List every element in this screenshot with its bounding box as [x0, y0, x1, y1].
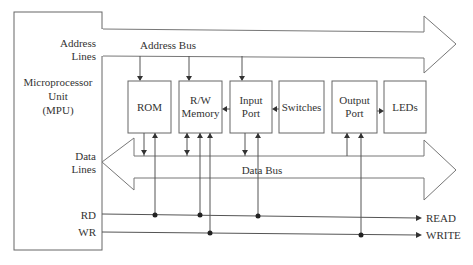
arrowhead-icon — [416, 215, 422, 221]
arrowhead-icon — [186, 76, 192, 81]
arrowhead-icon — [242, 150, 248, 155]
wr-line — [102, 232, 418, 235]
junction-dot — [256, 214, 261, 219]
junction-dot — [153, 213, 158, 218]
arrowhead-icon — [184, 150, 190, 155]
svg-text:R/W: R/W — [190, 94, 211, 106]
mpu-title-1: Microprocessor — [23, 76, 92, 88]
svg-text:Switches: Switches — [282, 101, 322, 113]
junction-dot — [208, 231, 213, 236]
rw-memory-block: R/W Memory — [179, 81, 222, 133]
write-label: WRITE — [426, 229, 461, 241]
data-lines-label-2: Lines — [72, 163, 96, 175]
address-bus-label: Address Bus — [140, 39, 196, 51]
address-lines-label-1: Address — [60, 37, 96, 49]
svg-text:Memory: Memory — [182, 107, 220, 119]
leds-block: LEDs — [384, 81, 426, 133]
svg-text:Input: Input — [239, 94, 262, 106]
svg-text:ROM: ROM — [137, 101, 162, 113]
rom-block: ROM — [128, 81, 171, 133]
svg-text:Port: Port — [242, 107, 260, 119]
arrowhead-icon — [239, 76, 245, 81]
mpu-title-3: (MPU) — [42, 104, 74, 117]
arrowhead-icon — [141, 150, 147, 155]
arrowhead-icon — [358, 133, 364, 138]
mpu-title-2: Unit — [48, 90, 68, 102]
arrowhead-icon — [416, 232, 422, 238]
read-label: READ — [426, 212, 456, 224]
arrowhead-icon — [255, 133, 261, 138]
address-lines-label-2: Lines — [72, 50, 96, 62]
arrowhead-icon — [197, 133, 203, 138]
output-port-block: Output Port — [332, 81, 377, 133]
switches-block: Switches — [279, 81, 324, 133]
svg-text:Output: Output — [339, 94, 370, 106]
data-bus-label: Data Bus — [242, 164, 283, 176]
rd-label: RD — [81, 209, 96, 221]
arrowhead-icon — [184, 133, 190, 138]
arrowhead-icon — [207, 133, 213, 138]
arrowhead-icon — [152, 133, 158, 138]
junction-dot — [359, 233, 364, 238]
svg-text:LEDs: LEDs — [392, 101, 418, 113]
arrowhead-icon — [344, 133, 350, 138]
arrowhead-icon — [137, 76, 143, 81]
mpu-system-diagram: Address Lines Microprocessor Unit (MPU) … — [0, 0, 473, 265]
wr-label: WR — [78, 226, 96, 238]
arrowhead-icon — [379, 108, 384, 114]
arrowhead-icon — [222, 106, 227, 112]
junction-dot — [198, 213, 203, 218]
arrowhead-icon — [272, 106, 277, 112]
data-lines-label-1: Data — [75, 150, 96, 162]
input-port-block: Input Port — [230, 81, 272, 133]
svg-text:Port: Port — [345, 107, 363, 119]
